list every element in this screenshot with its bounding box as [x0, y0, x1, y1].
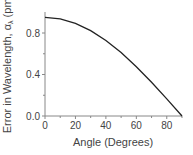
x-tick-label: 0: [42, 120, 48, 131]
x-axis-label: Angle (Degrees): [73, 136, 153, 148]
tick-labels: 0204060800.00.40.8: [26, 28, 173, 132]
x-tick-label: 40: [100, 120, 112, 131]
y-tick-label: 0.4: [26, 69, 40, 80]
y-tick-label: 0.0: [26, 111, 40, 122]
y-axis-label: Error in Wavelength, αλ (pm): [1, 0, 14, 133]
line-chart: 0204060800.00.40.8 Angle (Degrees) Error…: [0, 0, 193, 155]
y-tick-label: 0.8: [26, 28, 40, 39]
x-tick-label: 60: [131, 120, 143, 131]
x-tick-label: 20: [70, 120, 82, 131]
x-tick-label: 80: [161, 120, 173, 131]
data-line: [45, 17, 182, 116]
axes: [42, 12, 182, 119]
